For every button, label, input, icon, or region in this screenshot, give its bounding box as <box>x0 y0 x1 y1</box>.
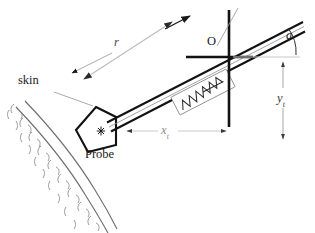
ultrasound-probe <box>76 107 116 152</box>
y-target-label-subscript: t <box>283 100 285 109</box>
needle-shaft <box>107 22 305 132</box>
y-target-label: yt <box>277 92 285 107</box>
y-target-label-main: y <box>277 91 283 105</box>
angle-label: a <box>286 29 292 42</box>
radius-label: r <box>114 36 119 49</box>
radius-dimension-arrow <box>84 22 172 79</box>
origin-label: O <box>207 35 216 48</box>
origin-crosshair-axes <box>186 10 253 127</box>
skin-leader-line <box>54 53 112 106</box>
skin-label: skin <box>18 74 39 87</box>
diagram-canvas: skin Probe O r a yt xt <box>0 0 315 233</box>
x-target-label-subscript: t <box>167 132 169 141</box>
probe-label: Probe <box>85 148 114 161</box>
diagram-vector-layer <box>0 0 315 233</box>
origin-leader-line <box>217 8 238 46</box>
insertion-direction-arrow <box>165 16 190 29</box>
x-target-label: xt <box>161 124 169 139</box>
x-target-label-main: x <box>161 123 167 137</box>
spring-zigzag-symbol <box>171 69 235 115</box>
